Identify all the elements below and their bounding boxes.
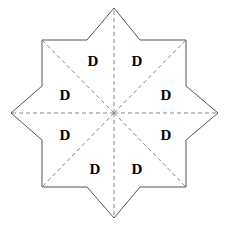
star-diagram-figure: D D D D D D D D <box>0 0 227 226</box>
sector-label-west-north: D <box>60 88 71 103</box>
sector-label-south-west: D <box>90 162 101 177</box>
sector-label-north-east: D <box>132 54 143 69</box>
sector-label-east-south: D <box>161 128 172 143</box>
sector-label-south-east: D <box>132 162 143 177</box>
sector-label-east-north: D <box>161 88 172 103</box>
sector-label-north-west: D <box>88 54 99 69</box>
star-diagram-canvas <box>0 0 227 226</box>
sector-label-west-south: D <box>60 128 71 143</box>
